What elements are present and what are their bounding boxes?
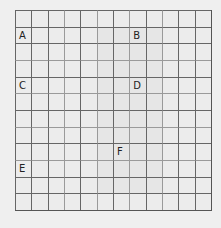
grid-cell	[48, 27, 64, 44]
grid-cell	[97, 193, 113, 210]
grid-cell	[64, 177, 80, 194]
grid-cell	[48, 127, 64, 144]
grid-cell	[178, 193, 194, 210]
grid-cell	[15, 93, 31, 110]
grid-cell	[15, 177, 31, 194]
grid-cell	[31, 127, 47, 144]
grid-cell	[64, 10, 80, 27]
grid-cell	[146, 177, 162, 194]
grid-cell	[64, 127, 80, 144]
grid-cell	[129, 160, 145, 177]
grid-cell	[146, 143, 162, 160]
grid-cell	[146, 110, 162, 127]
grid-cell	[162, 10, 178, 27]
grid-cell	[113, 60, 129, 77]
grid-label-b: B	[133, 30, 140, 42]
grid-cell	[195, 60, 211, 77]
grid-cell	[113, 177, 129, 194]
grid-cell	[31, 43, 47, 60]
grid-cell	[97, 110, 113, 127]
grid-cell: E	[15, 160, 31, 177]
grid-cell	[146, 93, 162, 110]
grid-cell	[178, 127, 194, 144]
grid-cell	[146, 193, 162, 210]
grid-cell	[15, 143, 31, 160]
grid-cell	[48, 43, 64, 60]
grid-cell	[64, 77, 80, 94]
grid-cell	[80, 93, 96, 110]
grid-cell	[48, 160, 64, 177]
grid-cell	[146, 127, 162, 144]
grid-cell	[48, 143, 64, 160]
grid-label-c: C	[19, 80, 26, 92]
grid-cell	[15, 10, 31, 27]
grid-cell	[113, 110, 129, 127]
grid-cell	[195, 10, 211, 27]
grid-cell	[195, 160, 211, 177]
grid-cell	[97, 177, 113, 194]
grid-cell	[178, 27, 194, 44]
grid-cell	[64, 193, 80, 210]
grid-cell	[31, 93, 47, 110]
grid-cell	[97, 10, 113, 27]
grid-cell	[80, 177, 96, 194]
grid-cell	[178, 110, 194, 127]
grid-cell	[162, 143, 178, 160]
grid-cell	[195, 110, 211, 127]
grid-cell	[178, 177, 194, 194]
grid-cell	[31, 177, 47, 194]
grid-cell	[178, 60, 194, 77]
grid-cell	[113, 127, 129, 144]
grid-cell	[31, 27, 47, 44]
grid-cell	[97, 160, 113, 177]
grid-cell	[178, 93, 194, 110]
grid-cell	[195, 77, 211, 94]
grid-cell	[31, 160, 47, 177]
grid-cell	[162, 127, 178, 144]
grid-cell	[80, 143, 96, 160]
grid-cell	[129, 177, 145, 194]
grid-cell	[195, 93, 211, 110]
grid-cell	[162, 27, 178, 44]
grid-cell	[15, 110, 31, 127]
grid-cell	[64, 60, 80, 77]
grid-cell	[162, 160, 178, 177]
grid-cell	[97, 60, 113, 77]
grid-cell	[31, 193, 47, 210]
grid-cell	[129, 193, 145, 210]
grid-cell	[113, 93, 129, 110]
grid-cell	[195, 27, 211, 44]
grid-cell	[64, 43, 80, 60]
grid-label-e: E	[19, 163, 25, 175]
grid-cell	[15, 193, 31, 210]
grid-cell	[80, 127, 96, 144]
grid-cell: C	[15, 77, 31, 94]
grid-cell	[48, 177, 64, 194]
grid-label-f: F	[117, 146, 123, 158]
grid-cell	[129, 43, 145, 60]
grid-cell	[195, 143, 211, 160]
grid-cell	[113, 10, 129, 27]
grid-cell	[178, 143, 194, 160]
grid-cell	[113, 193, 129, 210]
grid-cell	[162, 177, 178, 194]
grid-cell	[31, 143, 47, 160]
grid-cell	[129, 10, 145, 27]
grid-cell	[64, 27, 80, 44]
grid-cell	[15, 60, 31, 77]
grid-cell	[80, 193, 96, 210]
grid-cell	[129, 143, 145, 160]
grid-cell	[80, 110, 96, 127]
grid-cell	[162, 93, 178, 110]
grid-cell: D	[129, 77, 145, 94]
grid-cell	[195, 177, 211, 194]
grid-cell	[162, 43, 178, 60]
grid-cell	[15, 127, 31, 144]
grid-cell	[80, 160, 96, 177]
grid-cell	[129, 93, 145, 110]
grid-cell	[48, 93, 64, 110]
grid-cell	[80, 10, 96, 27]
grid-cell	[64, 160, 80, 177]
grid-cell	[48, 110, 64, 127]
grid-cell	[97, 127, 113, 144]
